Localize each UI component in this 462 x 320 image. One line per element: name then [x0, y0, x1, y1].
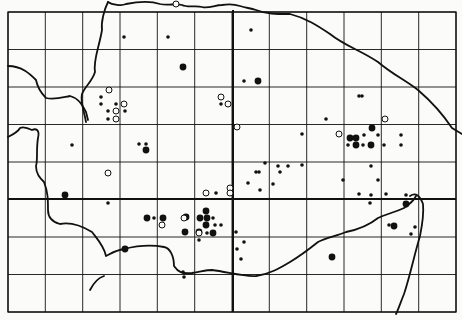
open-circle — [382, 116, 388, 122]
coastline-segment — [8, 66, 88, 120]
small-filled-dot — [357, 192, 361, 196]
large-filled-dot — [203, 222, 210, 229]
small-filled-dot — [369, 193, 373, 197]
small-filled-dot — [413, 225, 417, 229]
large-filled-dot — [204, 215, 211, 222]
small-filled-dot — [239, 257, 243, 261]
large-filled-dot — [180, 64, 187, 71]
small-filled-dot — [399, 143, 403, 147]
large-filled-dot — [347, 135, 354, 142]
open-circle — [113, 108, 119, 114]
small-filled-dot — [376, 178, 380, 182]
small-filled-dot — [234, 230, 238, 234]
coastline-segment — [108, 2, 462, 134]
open-circle — [218, 94, 224, 100]
small-filled-dot — [214, 191, 218, 195]
small-filled-dot — [360, 94, 364, 98]
small-filled-dot — [235, 247, 239, 251]
small-filled-dot — [106, 109, 110, 113]
small-filled-dot — [106, 201, 110, 205]
open-circle — [106, 87, 112, 93]
open-circle — [181, 215, 187, 221]
small-filled-dot — [219, 223, 223, 227]
small-filled-dot — [249, 28, 253, 32]
coastline — [8, 2, 462, 314]
small-filled-dot — [341, 178, 345, 182]
small-filled-dot — [271, 182, 275, 186]
large-filled-dot — [403, 201, 410, 208]
coastline-segment — [81, 2, 108, 122]
small-filled-dot — [258, 188, 262, 192]
small-filled-dot — [263, 161, 267, 165]
grid-lines — [8, 10, 456, 312]
small-filled-dot — [300, 132, 304, 136]
large-filled-dot — [144, 215, 151, 222]
large-filled-dot — [62, 192, 69, 199]
large-filled-dot — [353, 135, 360, 142]
open-circle — [196, 230, 202, 236]
small-filled-dot — [387, 223, 391, 227]
small-filled-dot — [368, 201, 372, 205]
small-filled-dot — [399, 133, 403, 137]
small-filled-dot — [70, 143, 74, 147]
small-filled-dot — [286, 164, 290, 168]
small-filled-dot — [300, 163, 304, 167]
small-filled-dot — [122, 35, 126, 39]
small-filled-dot — [137, 142, 141, 146]
small-filled-dot — [205, 231, 209, 235]
open-circle — [234, 124, 240, 130]
small-filled-dot — [106, 117, 110, 121]
coastline-segment — [396, 194, 423, 314]
small-filled-dot — [197, 238, 201, 242]
open-circle — [105, 170, 111, 176]
small-filled-dot — [254, 170, 258, 174]
large-filled-dot — [329, 254, 336, 261]
large-filled-dot — [369, 125, 376, 132]
small-filled-dot — [409, 232, 413, 236]
coastline-segment — [8, 127, 416, 276]
small-filled-dot — [246, 181, 250, 185]
open-circle — [113, 116, 119, 122]
small-filled-dot — [211, 216, 215, 220]
small-filled-dot — [123, 109, 127, 113]
large-filled-dot — [353, 142, 360, 149]
large-filled-dot — [203, 208, 210, 215]
small-filled-dot — [182, 275, 186, 279]
large-filled-dot — [197, 215, 204, 222]
small-filled-dot — [144, 142, 148, 146]
small-filled-dot — [114, 102, 118, 106]
large-filled-dot — [210, 230, 217, 237]
open-circle — [173, 1, 179, 7]
open-circle — [203, 190, 209, 196]
large-filled-dot — [143, 147, 150, 154]
small-filled-dot — [376, 133, 380, 137]
open-circle — [225, 101, 231, 107]
open-circle — [121, 101, 127, 107]
large-filled-dot — [182, 229, 189, 236]
open-circle — [227, 190, 233, 196]
large-filled-dot — [391, 223, 398, 230]
small-filled-dot — [213, 223, 217, 227]
small-filled-dot — [181, 270, 185, 274]
small-filled-dot — [99, 95, 103, 99]
large-filled-dot — [368, 142, 375, 149]
small-filled-dot — [166, 35, 170, 39]
small-filled-dot — [346, 143, 350, 147]
small-filled-dot — [361, 143, 365, 147]
open-circle — [336, 131, 342, 137]
small-filled-dot — [242, 79, 246, 83]
small-filled-dot — [404, 193, 408, 197]
small-filled-dot — [242, 240, 246, 244]
small-filled-dot — [324, 117, 328, 121]
small-filled-dot — [369, 164, 373, 168]
small-filled-dot — [219, 102, 223, 106]
small-filled-dot — [362, 133, 366, 137]
large-filled-dot — [122, 246, 129, 253]
small-filled-dot — [382, 143, 386, 147]
small-filled-dot — [278, 170, 282, 174]
open-circle — [159, 222, 165, 228]
small-filled-dot — [384, 192, 388, 196]
small-filled-dot — [276, 164, 280, 168]
coastline-segment — [90, 276, 104, 290]
small-filled-dot — [152, 216, 156, 220]
